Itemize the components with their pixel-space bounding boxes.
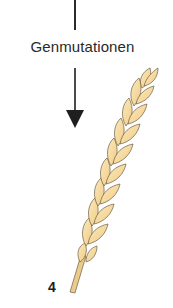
stage-number: 4 (48, 279, 56, 295)
wheat-ear-icon (0, 0, 173, 308)
